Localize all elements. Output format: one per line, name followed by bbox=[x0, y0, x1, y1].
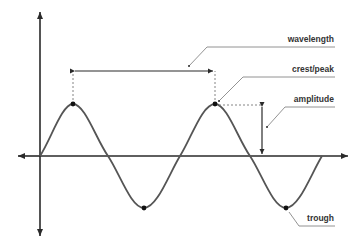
crest-point-1 bbox=[71, 102, 76, 107]
trough-point-2 bbox=[284, 206, 289, 211]
trough-point-1 bbox=[142, 206, 147, 211]
amplitude-leader-dot bbox=[266, 126, 268, 128]
amplitude-leader bbox=[267, 107, 335, 127]
crest-leader-dot bbox=[218, 100, 220, 102]
wavelength-leader-dot bbox=[188, 65, 190, 67]
amplitude-label: amplitude bbox=[294, 94, 334, 104]
crest-peak-label: crest/peak bbox=[292, 64, 334, 74]
wavelength-label: wavelength bbox=[288, 34, 334, 44]
crest-point-2 bbox=[213, 102, 218, 107]
trough-label: trough bbox=[307, 213, 334, 223]
